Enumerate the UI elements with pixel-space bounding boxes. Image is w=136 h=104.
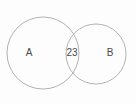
venn-label-a: A: [26, 47, 33, 58]
venn-intersection-count: 23: [66, 47, 78, 58]
venn-diagram: A 23 B: [0, 0, 136, 104]
venn-label-b: B: [107, 47, 114, 58]
venn-diagram-canvas: A 23 B: [0, 0, 136, 104]
